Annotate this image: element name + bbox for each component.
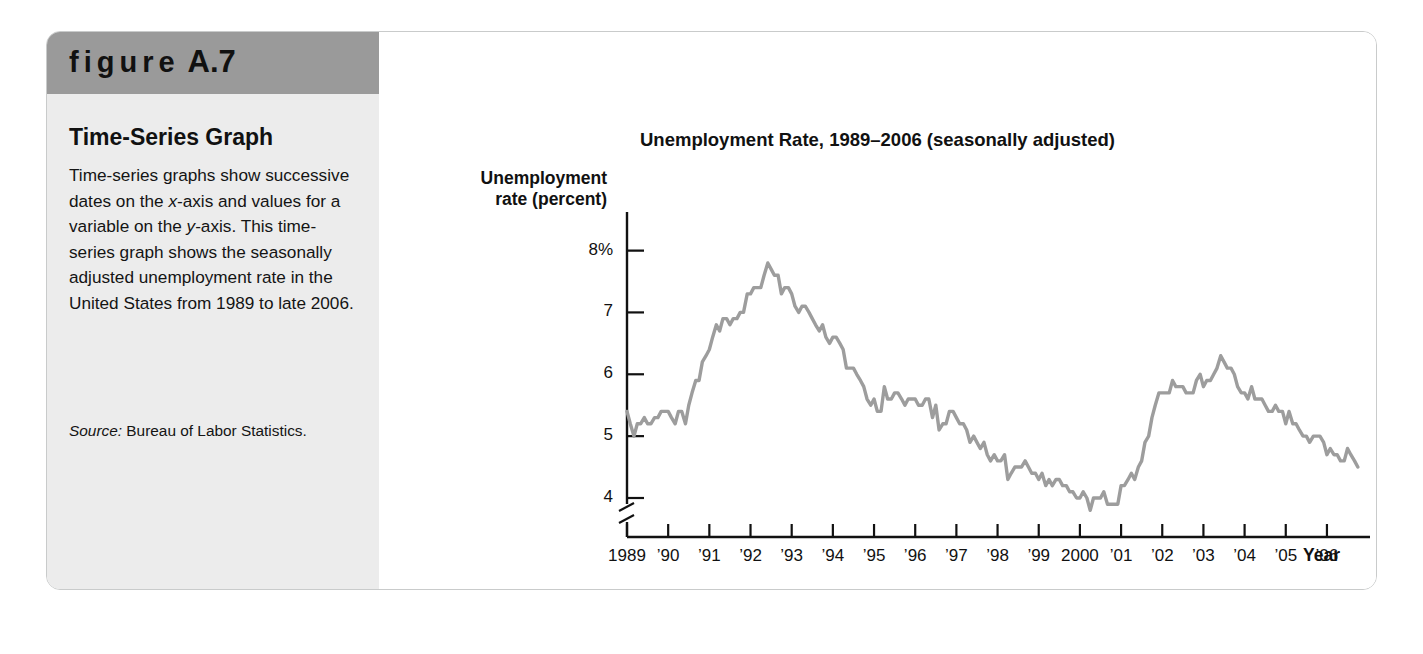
x-tick-label: ’02 [1151, 546, 1174, 566]
y-tick-label: 8% [555, 240, 613, 260]
plot-series [627, 263, 1358, 510]
y-tick-label: 5 [555, 425, 613, 445]
x-tick-label: ’90 [657, 546, 680, 566]
figure-label-number: A.7 [188, 44, 236, 79]
y-tick-label: 6 [555, 363, 613, 383]
x-tick-label: ’03 [1192, 546, 1215, 566]
x-tick-label: ’96 [904, 546, 927, 566]
figure-card: figureA.7 Time-Series Graph Time-series … [46, 31, 1377, 590]
y-tick-label: 4 [555, 487, 613, 507]
x-tick-label: ’92 [739, 546, 762, 566]
figure-label: figureA.7 [69, 44, 236, 80]
x-tick-label: ’97 [945, 546, 968, 566]
x-tick-label: ’05 [1274, 546, 1297, 566]
x-tick-label: ’94 [822, 546, 845, 566]
x-tick-label: ’91 [698, 546, 721, 566]
x-tick-label: ’98 [986, 546, 1009, 566]
x-tick-label: ’99 [1027, 546, 1050, 566]
caption-body: Time-series graphs show successive dates… [69, 163, 357, 317]
figure-label-prefix: figure [69, 46, 180, 78]
x-tick-label: ’01 [1110, 546, 1133, 566]
y-tick-label: 7 [555, 301, 613, 321]
caption-source-label: Source: [69, 422, 122, 439]
x-tick-label: ’93 [780, 546, 803, 566]
caption-source-text: Bureau of Labor Statistics. [126, 422, 307, 439]
time-series-plot [379, 32, 1377, 590]
x-tick-label: ’04 [1233, 546, 1256, 566]
x-tick-label: 1989 [608, 546, 646, 566]
plot-axes [619, 212, 1370, 537]
figure-page: figureA.7 Time-Series Graph Time-series … [0, 0, 1423, 654]
caption-title: Time-Series Graph [69, 124, 273, 151]
caption-source: Source: Bureau of Labor Statistics. [69, 422, 369, 440]
x-tick-label: ’95 [863, 546, 886, 566]
chart-panel: Unemployment Rate, 1989–2006 (seasonally… [379, 32, 1376, 589]
x-tick-label: 2000 [1061, 546, 1099, 566]
x-tick-label: ’06 [1316, 546, 1339, 566]
